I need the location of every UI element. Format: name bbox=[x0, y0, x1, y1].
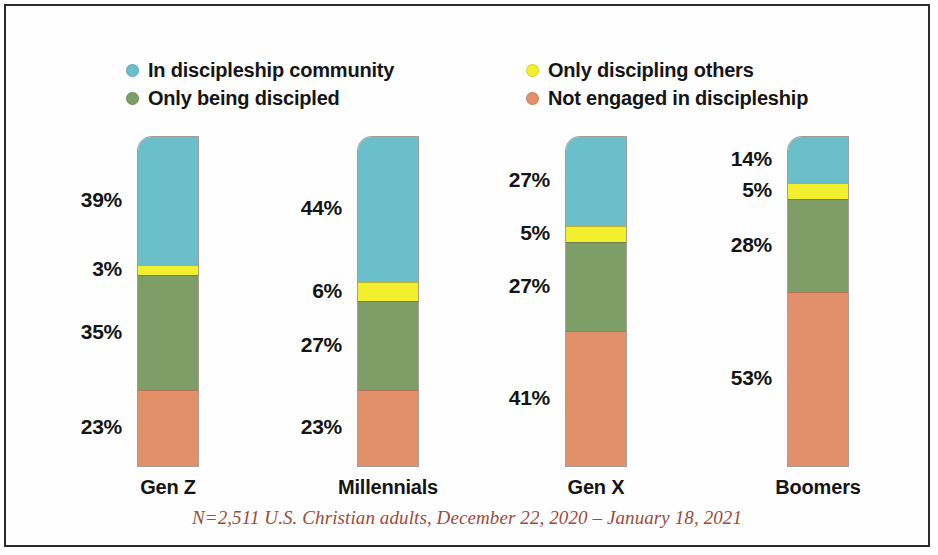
segment-value-label: 5% bbox=[520, 221, 550, 245]
segment-value-label: 27% bbox=[509, 168, 550, 192]
stacked-bar bbox=[788, 137, 848, 466]
bar-segment bbox=[566, 226, 626, 242]
bar-segment bbox=[358, 390, 418, 466]
bar-segment bbox=[138, 390, 198, 466]
category-label: Millennials bbox=[298, 476, 478, 499]
stacked-bar bbox=[138, 137, 198, 466]
bar-segment bbox=[358, 282, 418, 302]
bar-segment bbox=[788, 199, 848, 291]
segment-value-label: 23% bbox=[301, 415, 342, 439]
bar-segment bbox=[358, 301, 418, 390]
bar-segment bbox=[138, 265, 198, 275]
bar-segment bbox=[138, 137, 198, 265]
segment-value-label: 28% bbox=[731, 233, 772, 257]
chart-footnote: N=2,511 U.S. Christian adults, December … bbox=[6, 507, 928, 529]
category-label: Gen X bbox=[506, 476, 686, 499]
category-label: Boomers bbox=[728, 476, 908, 499]
segment-value-label: 44% bbox=[301, 196, 342, 220]
bar-segment bbox=[566, 242, 626, 331]
bar-segment bbox=[788, 292, 848, 466]
segment-value-label: 35% bbox=[81, 320, 122, 344]
segment-value-label: 23% bbox=[81, 415, 122, 439]
segment-value-label: 41% bbox=[509, 386, 550, 410]
segment-value-label: 5% bbox=[742, 178, 772, 202]
plot-area: 39%3%35%23%Gen Z44%6%27%23%Millennials27… bbox=[6, 6, 932, 549]
chart-frame: In discipleship community Only being dis… bbox=[4, 4, 930, 547]
bar-segment bbox=[788, 137, 848, 183]
segment-value-label: 14% bbox=[731, 147, 772, 171]
stacked-bar bbox=[566, 137, 626, 466]
segment-value-label: 53% bbox=[731, 366, 772, 390]
bar-segment bbox=[566, 137, 626, 226]
category-label: Gen Z bbox=[78, 476, 258, 499]
bar-segment bbox=[788, 183, 848, 199]
bar-segment bbox=[358, 137, 418, 282]
segment-value-label: 39% bbox=[81, 188, 122, 212]
bar-segment bbox=[566, 331, 626, 466]
segment-value-label: 6% bbox=[312, 279, 342, 303]
bar-segment bbox=[138, 275, 198, 390]
segment-value-label: 27% bbox=[509, 274, 550, 298]
segment-value-label: 27% bbox=[301, 333, 342, 357]
segment-value-label: 3% bbox=[92, 257, 122, 281]
stacked-bar bbox=[358, 137, 418, 466]
